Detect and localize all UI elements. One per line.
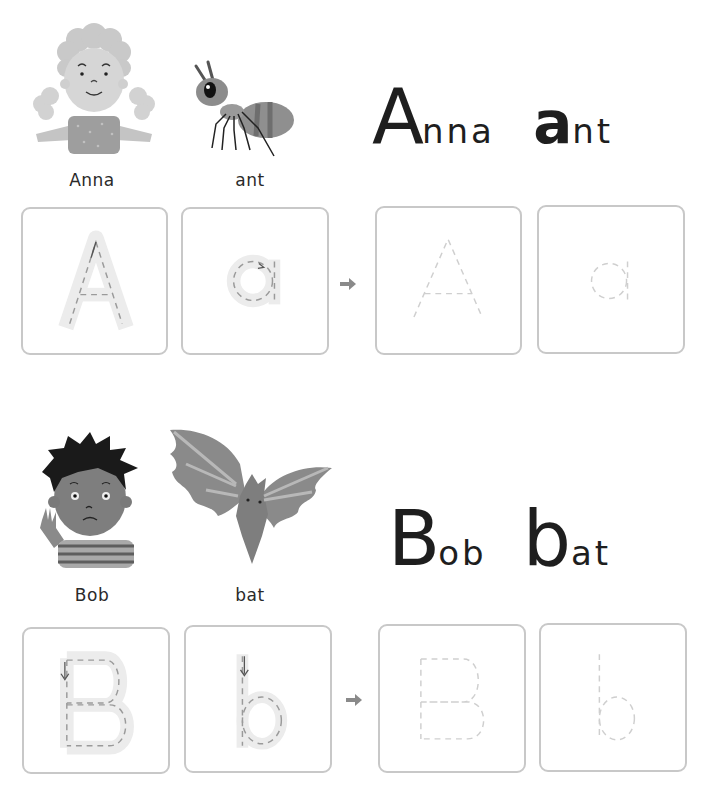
heading-word1-rest: nna: [422, 111, 495, 151]
tracing-box-uppercase-a-guided[interactable]: [21, 207, 168, 355]
heading-anna-ant: Anna ant: [372, 72, 613, 161]
heading-bob-bat: Bob bat: [388, 494, 611, 583]
tracing-box-lowercase-a-dotted[interactable]: [537, 205, 685, 354]
right-arrow-icon: [340, 278, 356, 290]
ant-illustration: [178, 58, 298, 158]
right-arrow-icon: [346, 694, 362, 706]
letter-a-guide-glyph: [23, 209, 166, 353]
letter-b-lower-dotted-glyph: [541, 625, 685, 770]
heading-word1-initial: A: [372, 72, 422, 161]
heading-word2-initial: a: [533, 89, 572, 157]
heading-word1-rest: ob: [438, 533, 486, 573]
bat-illustration: [166, 424, 336, 574]
caption-anna: Anna: [42, 170, 142, 190]
tracing-box-uppercase-b-guided[interactable]: [22, 627, 170, 774]
letter-a-lower-guide-glyph: [183, 209, 327, 353]
tracing-box-uppercase-b-dotted[interactable]: [378, 624, 526, 773]
tracing-box-lowercase-b-dotted[interactable]: [539, 623, 687, 772]
letter-b-dotted-glyph: [380, 626, 524, 771]
boy-bob-illustration: [34, 428, 142, 568]
letter-b-lower-guide-glyph: [186, 627, 330, 771]
letter-a-lower-dotted-glyph: [539, 207, 683, 352]
heading-word1-initial: B: [388, 494, 438, 583]
heading-word2-initial: b: [523, 494, 571, 583]
tracing-box-lowercase-a-guided[interactable]: [181, 207, 329, 355]
tracing-box-uppercase-a-dotted[interactable]: [375, 206, 522, 355]
letter-a-dotted-glyph: [377, 208, 520, 353]
caption-ant: ant: [200, 170, 300, 190]
caption-bat: bat: [200, 585, 300, 605]
tracing-box-lowercase-b-guided[interactable]: [184, 625, 332, 773]
girl-anna-illustration: [28, 22, 160, 154]
heading-word2-rest: nt: [572, 111, 613, 151]
caption-bob: Bob: [42, 585, 142, 605]
heading-word2-rest: at: [571, 533, 611, 573]
letter-b-guide-glyph: [24, 629, 168, 772]
